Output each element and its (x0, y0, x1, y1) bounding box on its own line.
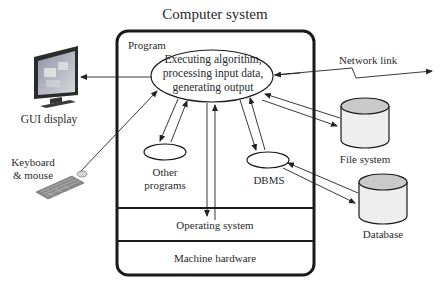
keyboard-mouse-line-1: Keyboard (11, 156, 54, 169)
diagram-title: Computer system (162, 8, 267, 21)
operating-system-label: Operating system (176, 219, 253, 232)
main-process-line-3: generating output (163, 80, 264, 94)
keyboard-mouse-label: Keyboard & mouse (11, 156, 54, 182)
database-label: Database (363, 228, 403, 241)
other-programs-label: Other programs (144, 166, 186, 192)
gui-display-label: GUI display (21, 113, 78, 126)
other-programs-ellipse (144, 144, 186, 160)
database-icon (359, 174, 407, 224)
diagram-canvas (0, 0, 448, 284)
file-system-icon (341, 98, 389, 148)
file-system-label: File system (340, 153, 390, 166)
machine-hardware-label: Machine hardware (174, 252, 256, 265)
dbms-ellipse (247, 152, 289, 168)
main-process-text: Executing algorithm, processing input da… (163, 52, 264, 94)
main-process-line-2: processing input data, (163, 66, 264, 80)
monitor-icon (34, 46, 78, 108)
program-label: Program (128, 39, 166, 52)
other-programs-line-2: programs (144, 179, 186, 192)
other-programs-line-1: Other (144, 166, 186, 179)
keyboard-mouse-line-2: & mouse (11, 169, 54, 182)
network-link-label: Network link (339, 54, 397, 67)
dbms-label: DBMS (253, 174, 284, 187)
main-process-line-1: Executing algorithm, (163, 52, 264, 66)
